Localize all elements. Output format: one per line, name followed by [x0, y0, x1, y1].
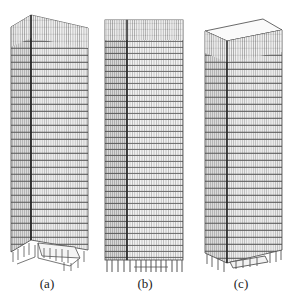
building-models-figure: [0, 0, 291, 303]
building-a: [11, 15, 88, 271]
caption-a: (a): [27, 276, 67, 292]
caption-b: (b): [125, 276, 165, 292]
building-b: [105, 20, 183, 272]
building-c: [205, 19, 282, 272]
caption-c: (c): [221, 276, 261, 292]
